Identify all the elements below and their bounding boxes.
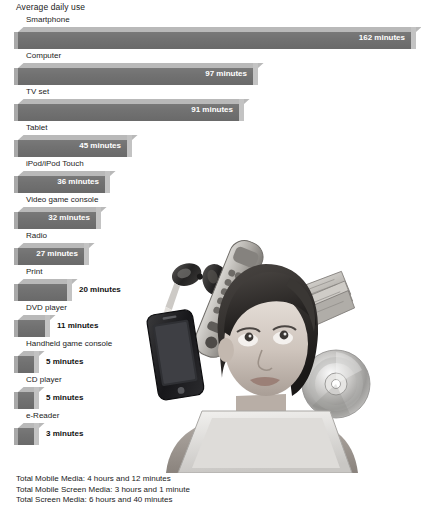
chart-row: DVD player11 minutes (0, 302, 421, 338)
bar-right-cap (411, 27, 416, 49)
bar-right-cap (45, 315, 50, 337)
bar-front-face (18, 356, 34, 373)
chart-row: Computer97 minutes (0, 50, 421, 86)
bar-chart: Smartphone162 minutesComputer97 minutesT… (0, 14, 421, 446)
chart-row: CD player5 minutes (0, 374, 421, 410)
category-label: Handheld game console (26, 338, 112, 350)
bar-e-reader[interactable] (14, 423, 39, 445)
value-label: 3 minutes (46, 429, 83, 439)
bar-print[interactable] (14, 279, 72, 301)
bar-right-cap (239, 99, 244, 121)
bar-smartphone[interactable] (14, 27, 416, 49)
chart-row: iPod/iPod Touch36 minutes (0, 158, 421, 194)
chart-row: Radio27 minutes (0, 230, 421, 266)
category-label: e-Reader (26, 410, 59, 422)
category-label: CD player (26, 374, 62, 386)
total-line: Total Mobile Screen Media: 3 hours and 1… (16, 485, 296, 496)
bar-right-cap (253, 63, 258, 85)
value-label: 36 minutes (57, 177, 99, 187)
chart-row: Smartphone162 minutes (0, 14, 421, 50)
chart-row: Video game console32 minutes (0, 194, 421, 230)
chart-row: Tablet45 minutes (0, 122, 421, 158)
bar-right-cap (34, 423, 39, 445)
bar-front-face (18, 428, 34, 445)
category-label: Print (26, 266, 42, 278)
value-label: 97 minutes (205, 69, 247, 79)
totals-block: Total Mobile Media: 4 hours and 12 minut… (16, 474, 296, 506)
bar-right-cap (84, 243, 89, 265)
category-label: TV set (26, 86, 49, 98)
bar-front-face (18, 392, 34, 409)
value-label: 91 minutes (191, 105, 233, 115)
value-label: 20 minutes (79, 285, 121, 295)
category-label: Radio (26, 230, 47, 242)
value-label: 162 minutes (359, 33, 405, 43)
infographic-page: Average daily use (0, 0, 421, 509)
value-label: 5 minutes (46, 393, 83, 403)
chart-row: Handheld game console5 minutes (0, 338, 421, 374)
bar-front-face (18, 284, 67, 301)
bar-dvd-player[interactable] (14, 315, 50, 337)
value-label: 27 minutes (36, 249, 78, 259)
total-line: Total Screen Media: 6 hours and 40 minut… (16, 495, 296, 506)
bar-right-cap (105, 171, 110, 193)
value-label: 11 minutes (57, 321, 98, 331)
chart-row: e-Reader3 minutes (0, 410, 421, 446)
category-label: Computer (26, 50, 61, 62)
value-label: 45 minutes (79, 141, 121, 151)
bar-right-cap (127, 135, 132, 157)
category-label: Smartphone (26, 14, 70, 26)
category-label: Video game console (26, 194, 98, 206)
page-title: Average daily use (16, 2, 85, 12)
bar-right-cap (96, 207, 101, 229)
category-label: Tablet (26, 122, 47, 134)
bar-handheld-game-console[interactable] (14, 351, 39, 373)
value-label: 32 minutes (48, 213, 90, 223)
bar-right-cap (34, 351, 39, 373)
category-label: iPod/iPod Touch (26, 158, 84, 170)
bar-right-cap (34, 387, 39, 409)
bar-front-face (18, 320, 45, 337)
chart-row: TV set91 minutes (0, 86, 421, 122)
chart-row: Print20 minutes (0, 266, 421, 302)
total-line: Total Mobile Media: 4 hours and 12 minut… (16, 474, 296, 485)
bar-cd-player[interactable] (14, 387, 39, 409)
bar-right-cap (67, 279, 72, 301)
bar-front-face (18, 32, 411, 49)
value-label: 5 minutes (46, 357, 83, 367)
category-label: DVD player (26, 302, 67, 314)
